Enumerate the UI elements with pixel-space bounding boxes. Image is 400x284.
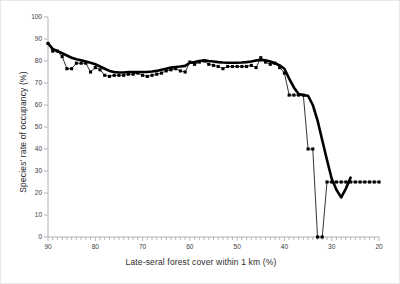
data-point-marker	[250, 64, 253, 67]
data-point-marker	[56, 50, 59, 53]
data-point-marker	[264, 61, 267, 64]
data-point-marker	[136, 72, 139, 75]
data-point-marker	[368, 180, 371, 183]
data-point-marker	[354, 180, 357, 183]
data-point-marker	[221, 67, 224, 70]
data-point-marker	[65, 67, 68, 70]
x-tick-label: 30	[322, 243, 342, 250]
data-point-marker	[316, 235, 319, 238]
x-axis-title: Late-seral forest cover within 1 km (%)	[1, 257, 400, 267]
data-point-marker	[46, 42, 49, 45]
data-point-marker	[193, 63, 196, 66]
data-point-marker	[188, 61, 191, 64]
data-point-marker	[61, 55, 64, 58]
data-point-marker	[283, 72, 286, 75]
data-point-marker	[335, 180, 338, 183]
data-point-marker	[259, 56, 262, 59]
data-point-marker	[184, 70, 187, 73]
data-point-marker	[51, 50, 54, 53]
y-tick-label: 90	[24, 35, 42, 42]
data-point-marker	[75, 62, 78, 65]
data-point-marker	[150, 74, 153, 77]
data-point-marker	[363, 180, 366, 183]
data-point-marker	[84, 62, 87, 65]
data-point-marker	[231, 65, 234, 68]
data-point-marker	[70, 67, 73, 70]
x-tick-label: 20	[369, 243, 389, 250]
data-point-marker	[94, 66, 97, 69]
data-point-marker	[98, 68, 101, 71]
data-point-marker	[349, 180, 352, 183]
y-axis-title: Species' rate of occupancy (%)	[18, 47, 28, 217]
data-point-marker	[359, 180, 362, 183]
data-point-marker	[198, 61, 201, 64]
data-point-marker	[212, 64, 215, 67]
data-point-marker	[80, 62, 83, 65]
series-observed-markers	[46, 42, 380, 239]
data-point-marker	[207, 63, 210, 66]
series-observed-line	[48, 43, 379, 237]
data-point-marker	[141, 74, 144, 77]
data-point-marker	[269, 63, 272, 66]
data-point-marker	[165, 69, 168, 72]
data-point-marker	[255, 66, 258, 69]
data-point-marker	[292, 94, 295, 97]
data-point-marker	[174, 67, 177, 70]
data-point-marker	[278, 66, 281, 69]
x-tick-label: 90	[38, 243, 58, 250]
data-point-marker	[113, 74, 116, 77]
data-point-marker	[169, 68, 172, 71]
data-point-marker	[89, 70, 92, 73]
chart-figure: 0102030405060708090100 9080706050403020 …	[0, 0, 400, 284]
data-point-marker	[117, 74, 120, 77]
y-tick-label: 0	[24, 233, 42, 240]
data-point-marker	[160, 72, 163, 75]
data-point-marker	[202, 59, 205, 62]
data-point-marker	[330, 180, 333, 183]
data-point-marker	[122, 74, 125, 77]
data-point-marker	[273, 62, 276, 65]
data-point-marker	[377, 180, 380, 183]
data-point-marker	[373, 180, 376, 183]
data-point-marker	[340, 180, 343, 183]
data-point-marker	[132, 73, 135, 76]
x-tick-label: 60	[180, 243, 200, 250]
data-point-marker	[325, 180, 328, 183]
x-minor-ticks	[48, 237, 379, 241]
axis-lines	[48, 17, 379, 237]
data-point-marker	[103, 74, 106, 77]
data-point-marker	[344, 180, 347, 183]
data-point-marker	[288, 94, 291, 97]
data-point-marker	[236, 65, 239, 68]
data-point-marker	[127, 73, 130, 76]
y-major-ticks	[44, 17, 48, 237]
data-point-marker	[226, 65, 229, 68]
data-point-marker	[302, 94, 305, 97]
data-point-marker	[311, 147, 314, 150]
y-tick-label: 100	[24, 13, 42, 20]
data-point-marker	[146, 75, 149, 78]
data-point-marker	[217, 65, 220, 68]
data-point-marker	[307, 147, 310, 150]
data-point-marker	[179, 69, 182, 72]
x-tick-label: 70	[133, 243, 153, 250]
data-point-marker	[240, 65, 243, 68]
data-point-marker	[297, 94, 300, 97]
chart-plot-area	[1, 1, 400, 284]
data-point-marker	[155, 73, 158, 76]
x-tick-label: 40	[274, 243, 294, 250]
data-point-marker	[245, 65, 248, 68]
x-tick-label: 80	[85, 243, 105, 250]
data-point-marker	[108, 75, 111, 78]
x-tick-label: 50	[227, 243, 247, 250]
data-point-marker	[321, 235, 324, 238]
